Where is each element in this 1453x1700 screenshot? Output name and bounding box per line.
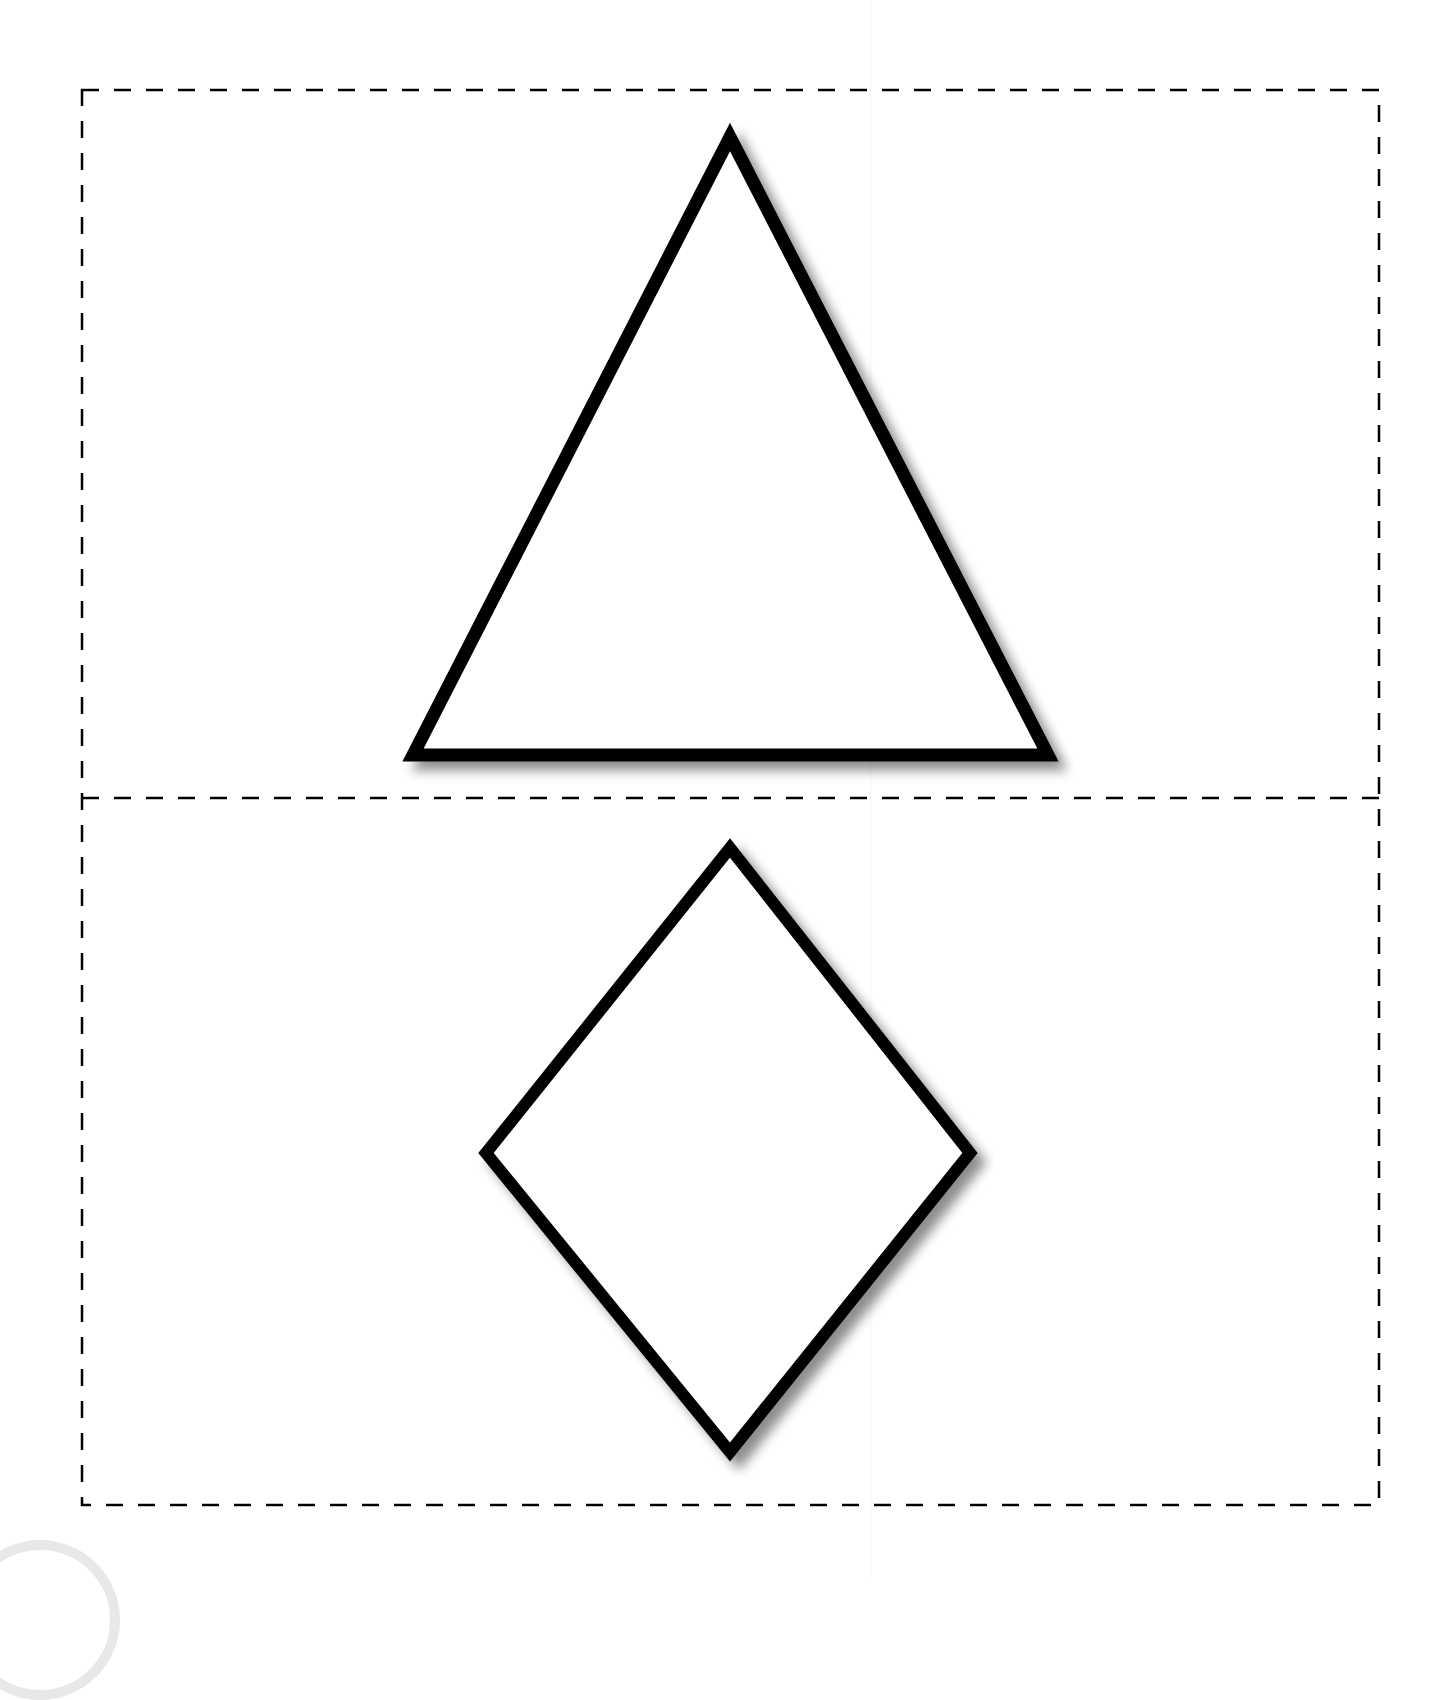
triangle-shape [413, 137, 1048, 755]
diamond-shape [486, 848, 970, 1452]
